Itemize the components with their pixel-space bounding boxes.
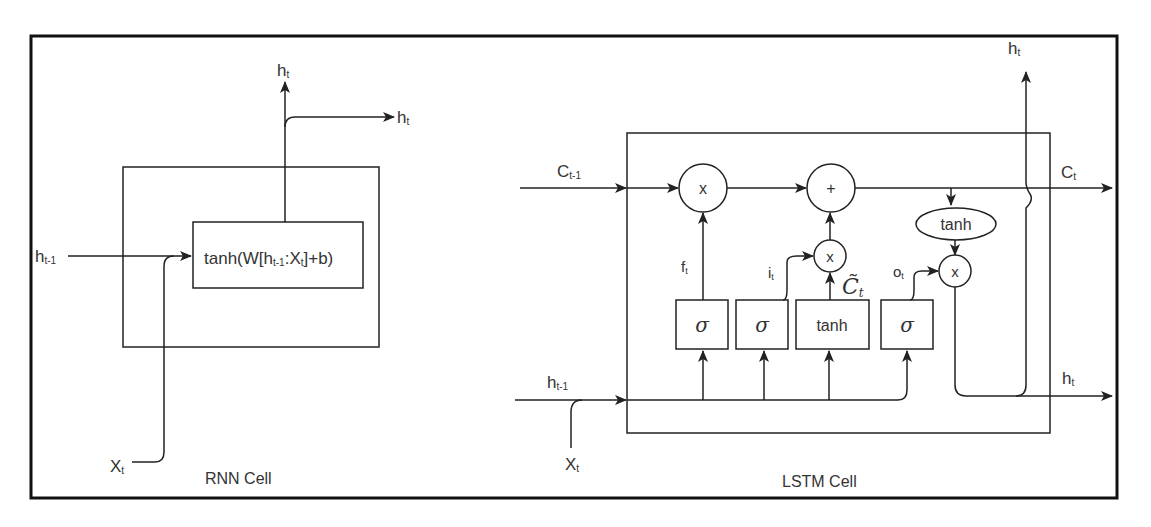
lstm-h-bus	[627, 351, 907, 400]
lstm-h-up-arrow	[1016, 72, 1031, 396]
lstm-c-prev-label: Ct-1	[557, 162, 581, 181]
lstm-x-label: Xt	[565, 455, 579, 474]
lstm-input-mult-symbol: x	[826, 248, 834, 265]
lstm-add-symbol: +	[826, 180, 835, 197]
lstm-caption: LSTM Cell	[782, 473, 857, 490]
rnn-h-prev-label: ht-1	[35, 247, 57, 266]
lstm-forget-label: ft	[681, 258, 688, 276]
lstm-candidate-label: C̃t	[842, 274, 864, 300]
rnn-lstm-diagram: tanh(W[ht-1:Xt]+b) ht-1 Xt ht ht RNN Cel…	[0, 0, 1151, 527]
lstm-input-label: it	[768, 264, 774, 282]
lstm-forget-gate-fn: σ	[695, 313, 710, 337]
rnn-x-input-line	[132, 256, 174, 462]
lstm-input-gate-fn: σ	[755, 313, 770, 337]
lstm-c-next-label: Ct	[1061, 163, 1076, 182]
lstm-output-gate-fn: σ	[900, 313, 915, 337]
lstm-output-label: ot	[893, 263, 904, 281]
rnn-h-right-arrow	[285, 117, 394, 127]
rnn-x-label: Xt	[110, 457, 124, 476]
lstm-x-input-line	[571, 400, 582, 448]
rnn-core-function: tanh(W[ht-1:Xt]+b)	[204, 249, 333, 268]
lstm-output-mult-symbol: x	[951, 263, 959, 280]
lstm-forget-mult-symbol: x	[699, 180, 707, 197]
lstm-input-to-mult	[783, 256, 813, 300]
lstm-candidate-gate-fn: tanh	[816, 317, 847, 334]
lstm-cell: Ct-1 x + Ct tanh x x σ σ tanh σ ft	[515, 39, 1112, 490]
lstm-cell-tanh-label: tanh	[940, 216, 971, 233]
lstm-h-up-label: ht	[1008, 39, 1020, 58]
lstm-h-prev-label: ht-1	[547, 373, 569, 392]
rnn-h-up-label: ht	[277, 61, 289, 80]
rnn-h-right-label: ht	[397, 108, 409, 127]
rnn-cell: tanh(W[ht-1:Xt]+b) ht-1 Xt ht ht RNN Cel…	[35, 61, 409, 487]
rnn-caption: RNN Cell	[205, 470, 272, 487]
lstm-h-right-label: ht	[1062, 369, 1074, 388]
lstm-h-right-arrow	[955, 287, 1112, 396]
lstm-output-to-mult	[910, 271, 938, 300]
